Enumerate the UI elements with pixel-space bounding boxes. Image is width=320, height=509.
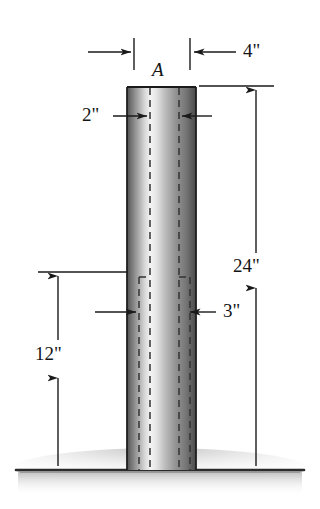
dim-upper-bore-label: 2" bbox=[82, 105, 99, 124]
dim-lower-height-label: 12" bbox=[35, 344, 62, 363]
dim-lower-bore-label: 3" bbox=[223, 301, 240, 320]
ground-line bbox=[16, 470, 304, 472]
dim-total-height-label: 24" bbox=[233, 256, 260, 275]
dim-outer-diameter-label: 4" bbox=[243, 41, 260, 60]
cylinder-column bbox=[127, 87, 196, 470]
diagram-canvas: A 4" 2" 3" 24" 12" bbox=[0, 0, 320, 509]
dim-lower-height-group bbox=[38, 272, 127, 466]
point-a-label: A bbox=[152, 60, 164, 79]
dim-total-height-group bbox=[199, 86, 274, 466]
